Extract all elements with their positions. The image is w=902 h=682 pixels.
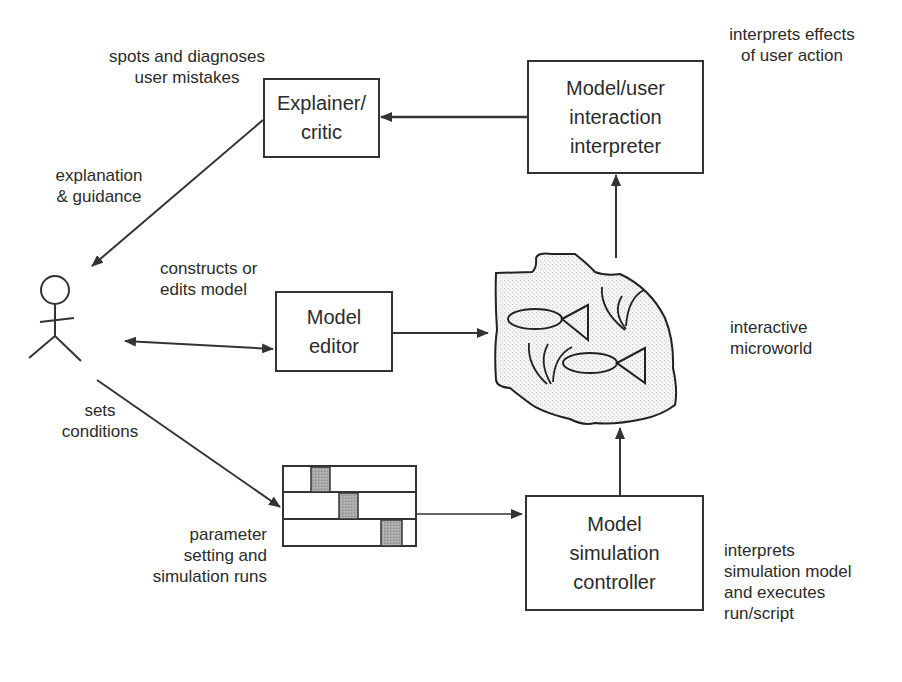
annotation-explanation-guidance: explanation & guidance [40,165,158,207]
simulation-controller-label: Model simulation controller [569,510,659,597]
user-stick-figure-icon [29,276,81,361]
arrow-user-editor-bidirectional [125,341,273,349]
annotation-spots-mistakes: spots and diagnoses user mistakes [92,46,282,88]
microworld-blob-icon [495,254,676,424]
model-editor-box: Model editor [275,291,393,372]
slider-thumb-1 [311,467,330,492]
slider-thumb-3 [381,520,402,546]
slider-thumb-2 [339,493,358,519]
model-editor-label: Model editor [307,303,361,361]
annotation-interprets-effects: interprets effects of user action [712,24,872,66]
annotation-constructs-edits: constructs or edits model [160,258,257,300]
explainer-critic-box: Explainer/ critic [263,78,380,158]
parameter-setting-panel [283,466,416,546]
annotation-interactive-microworld: interactive microworld [730,317,812,359]
simulation-controller-box: Model simulation controller [525,495,704,611]
interaction-interpreter-box: Model/user interaction interpreter [527,60,704,174]
annotation-parameter-setting: parameter setting and simulation runs [110,524,267,587]
annotation-interprets-simulation: interprets simulation model and executes… [724,540,852,624]
annotation-sets-conditions: sets conditions [50,400,150,442]
explainer-critic-label: Explainer/ critic [277,89,366,147]
interaction-interpreter-label: Model/user interaction interpreter [566,74,665,161]
